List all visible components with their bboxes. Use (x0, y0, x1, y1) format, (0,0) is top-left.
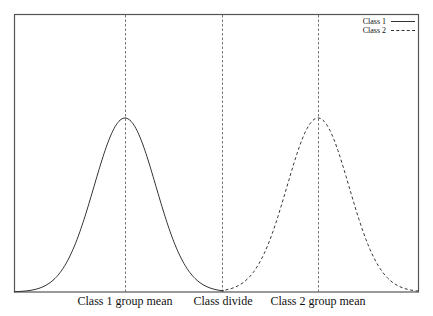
x-label-class-divide: Class divide (194, 294, 253, 309)
class-2-curve (220, 118, 418, 291)
legend-label: Class 1 (352, 17, 391, 26)
dashed-line-swatch-icon (391, 30, 415, 31)
chart-canvas (0, 0, 433, 316)
x-label-class-1-mean: Class 1 group mean (78, 294, 173, 309)
legend-item-class-2: Class 2 (352, 26, 415, 35)
x-label-class-2-mean: Class 2 group mean (271, 294, 366, 309)
legend: Class 1 Class 2 (352, 17, 415, 35)
vertical-guide-lines (126, 15, 319, 292)
plot-frame (15, 15, 419, 293)
legend-item-class-1: Class 1 (352, 17, 415, 26)
legend-label: Class 2 (352, 26, 391, 35)
solid-line-swatch-icon (391, 21, 415, 22)
class-1-curve (14, 118, 224, 292)
